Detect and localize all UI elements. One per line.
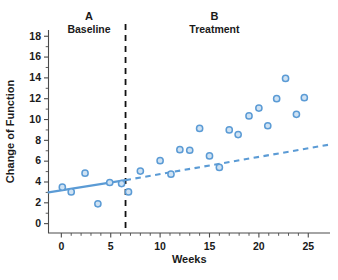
data-point: [59, 184, 65, 190]
x-tick-label-10: 10: [154, 240, 166, 252]
data-point: [125, 189, 131, 195]
data-point: [157, 158, 163, 164]
data-point: [95, 201, 101, 207]
chart-figure: 0246810121416180510152025WeeksChange of …: [0, 0, 338, 280]
y-tick-label-6: 6: [35, 154, 41, 166]
projected-trend: [126, 145, 330, 181]
scatter-plot-canvas: 0246810121416180510152025WeeksChange of …: [0, 0, 338, 280]
data-point: [226, 127, 232, 133]
x-tick-label-20: 20: [253, 240, 265, 252]
data-point: [168, 171, 174, 177]
x-tick-label-25: 25: [302, 240, 314, 252]
data-point: [274, 96, 280, 102]
y-tick-label-4: 4: [35, 175, 41, 187]
data-point: [256, 105, 262, 111]
axis-spines: [49, 30, 331, 233]
x-tick-label-15: 15: [204, 240, 216, 252]
data-point: [137, 168, 143, 174]
data-point: [82, 170, 88, 176]
phase-b-letter: B: [210, 10, 218, 22]
data-point: [107, 179, 113, 185]
data-point: [235, 132, 241, 138]
x-tick-label-0: 0: [58, 240, 64, 252]
x-axis-title: Weeks: [172, 253, 207, 265]
y-tick-label-10: 10: [29, 113, 41, 125]
y-tick-label-18: 18: [29, 30, 41, 42]
data-point: [216, 164, 222, 170]
y-tick-label-12: 12: [29, 92, 41, 104]
data-point: [246, 113, 252, 119]
data-point: [177, 147, 183, 153]
y-tick-label-16: 16: [29, 50, 41, 62]
x-tick-label-5: 5: [108, 240, 114, 252]
data-point: [293, 111, 299, 117]
phase-a-letter: A: [85, 10, 93, 22]
data-point: [68, 189, 74, 195]
y-tick-label-2: 2: [35, 196, 41, 208]
data-point: [118, 180, 124, 186]
data-point: [187, 147, 193, 153]
data-point: [265, 123, 271, 129]
phase-a-label: Baseline: [67, 23, 110, 35]
phase-b-label: Treatment: [189, 23, 240, 35]
y-axis-title: Change of Function: [4, 80, 16, 184]
data-point: [282, 75, 288, 81]
data-point: [301, 95, 307, 101]
y-tick-label-8: 8: [35, 134, 41, 146]
y-tick-label-14: 14: [29, 71, 41, 83]
data-point: [197, 125, 203, 131]
y-tick-label-0: 0: [35, 217, 41, 229]
data-point: [206, 153, 212, 159]
